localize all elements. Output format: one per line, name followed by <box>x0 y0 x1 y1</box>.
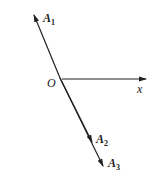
diagram-lines <box>0 0 152 176</box>
label-a2: A2 <box>96 133 108 148</box>
vector-diagram: A1 O x A2 A3 <box>0 0 152 176</box>
vector-oa3 <box>60 78 103 166</box>
label-origin: O <box>47 77 56 89</box>
label-a1: A1 <box>43 12 55 27</box>
label-x-axis: x <box>137 83 142 95</box>
label-a3: A3 <box>108 157 120 172</box>
